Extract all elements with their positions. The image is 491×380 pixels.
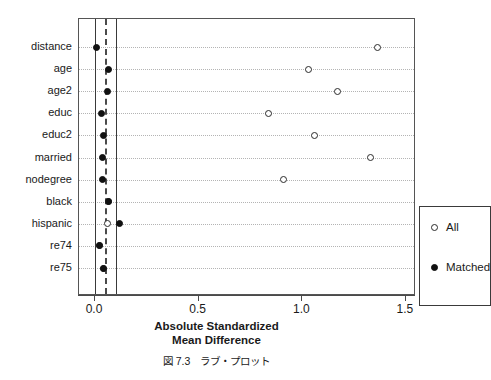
y-axis-label-educ2: educ2 xyxy=(42,129,72,140)
gridline-educ2 xyxy=(79,135,414,136)
data-point-matched-distance xyxy=(93,44,100,51)
gridline-black xyxy=(79,202,414,203)
gridline-hispanic xyxy=(79,224,414,225)
legend-entry-matched: Matched xyxy=(420,260,490,274)
filled-circle-icon xyxy=(431,264,438,271)
x-tick-label-0.0: 0.0 xyxy=(74,303,114,315)
x-tick-label-1.5: 1.5 xyxy=(385,303,425,315)
reference-line-0-05 xyxy=(105,19,107,294)
figure-caption: 図 7.3 ラブ・プロット xyxy=(0,355,433,367)
y-axis-label-educ: educ xyxy=(48,107,72,118)
x-tick-0.0 xyxy=(94,295,95,301)
gridline-re74 xyxy=(79,246,414,247)
data-point-matched-re75 xyxy=(100,265,107,272)
y-axis-label-age: age xyxy=(54,63,72,74)
x-tick-0.5 xyxy=(198,295,199,301)
legend-entry-all: All xyxy=(420,220,490,234)
x-axis-title-line1: Absolute Standardized xyxy=(0,320,433,334)
data-point-all-age2 xyxy=(334,88,341,95)
y-axis-label-re74: re74 xyxy=(50,240,72,251)
data-point-all-educ2 xyxy=(311,132,318,139)
data-point-matched-educ2 xyxy=(100,132,107,139)
y-axis-label-hispanic: hispanic xyxy=(32,218,72,229)
y-axis-label-black: black xyxy=(46,196,72,207)
data-point-all-married xyxy=(367,154,374,161)
data-point-matched-black xyxy=(105,198,112,205)
y-axis-label-nodegree: nodegree xyxy=(26,174,73,185)
data-point-matched-age xyxy=(105,66,112,73)
gridline-age xyxy=(79,69,414,70)
x-axis-title-line2: Mean Difference xyxy=(0,334,433,348)
data-point-matched-re74 xyxy=(96,242,103,249)
gridline-re75 xyxy=(79,268,414,269)
y-axis-label-re75: re75 xyxy=(50,262,72,273)
x-axis-title: Absolute Standardized Mean Difference xyxy=(0,320,433,347)
legend-label-matched: Matched xyxy=(446,260,490,274)
plot-area: AllMatched xyxy=(78,18,415,295)
data-point-all-educ xyxy=(265,110,272,117)
x-tick-label-0.5: 0.5 xyxy=(178,303,218,315)
gridline-educ xyxy=(79,113,414,114)
legend-box: AllMatched xyxy=(419,206,491,306)
y-axis-label-distance: distance xyxy=(31,41,72,52)
x-axis-line xyxy=(78,295,415,296)
x-tick-1.5 xyxy=(405,295,406,301)
open-circle-icon xyxy=(431,224,438,231)
gridline-distance xyxy=(79,47,414,48)
gridline-married xyxy=(79,158,414,159)
gridline-nodegree xyxy=(79,180,414,181)
data-point-all-age xyxy=(305,66,312,73)
x-tick-1.0 xyxy=(301,295,302,301)
gridline-age2 xyxy=(79,91,414,92)
data-point-matched-educ xyxy=(98,110,105,117)
y-axis-category-labels: distanceageage2educeduc2marriednodegreeb… xyxy=(0,18,72,295)
data-point-matched-hispanic xyxy=(116,220,123,227)
reference-line-0 xyxy=(95,19,96,294)
data-point-matched-married xyxy=(99,154,106,161)
legend-label-all: All xyxy=(446,220,459,234)
y-axis-label-married: married xyxy=(35,152,72,163)
x-tick-label-1.0: 1.0 xyxy=(281,303,321,315)
data-point-all-distance xyxy=(374,44,381,51)
y-axis-label-age2: age2 xyxy=(48,85,72,96)
data-point-matched-nodegree xyxy=(99,176,106,183)
reference-line-0-1 xyxy=(116,19,117,294)
data-point-all-hispanic xyxy=(104,220,111,227)
data-point-matched-age2 xyxy=(104,88,111,95)
data-point-all-nodegree xyxy=(280,176,287,183)
